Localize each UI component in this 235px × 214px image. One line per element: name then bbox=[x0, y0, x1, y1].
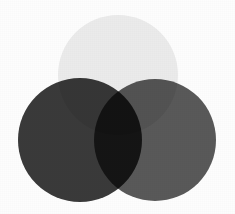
venn-diagram-figure bbox=[0, 0, 235, 214]
right-circle bbox=[94, 79, 216, 201]
venn-svg-root bbox=[0, 0, 235, 214]
